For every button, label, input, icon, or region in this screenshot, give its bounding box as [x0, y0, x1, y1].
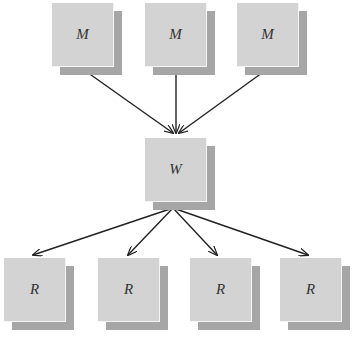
edge-m1-w — [84, 70, 173, 133]
node-face: M — [237, 3, 299, 67]
node-m2: M — [145, 3, 207, 67]
node-r3: R — [190, 258, 252, 322]
node-face: R — [4, 258, 66, 322]
node-face: R — [280, 258, 342, 322]
node-label: R — [216, 281, 225, 298]
node-label: R — [30, 281, 39, 298]
node-face: M — [145, 3, 207, 67]
node-face: R — [98, 258, 160, 322]
node-label: W — [169, 161, 182, 178]
edge-w-r4 — [173, 208, 308, 255]
node-m1: M — [52, 3, 114, 67]
node-r1: R — [4, 258, 66, 322]
node-label: M — [261, 26, 274, 43]
node-m3: M — [237, 3, 299, 67]
edge-w-r1 — [33, 208, 173, 255]
node-label: M — [169, 26, 182, 43]
node-w: W — [145, 138, 207, 202]
diagram-canvas: M M M W R R R R — [0, 0, 359, 352]
node-label: R — [124, 281, 133, 298]
node-r2: R — [98, 258, 160, 322]
edge-m3-w — [179, 70, 266, 133]
node-face: R — [190, 258, 252, 322]
node-r4: R — [280, 258, 342, 322]
node-label: M — [76, 26, 89, 43]
node-face: W — [145, 138, 207, 202]
node-face: M — [52, 3, 114, 67]
node-label: R — [306, 281, 315, 298]
